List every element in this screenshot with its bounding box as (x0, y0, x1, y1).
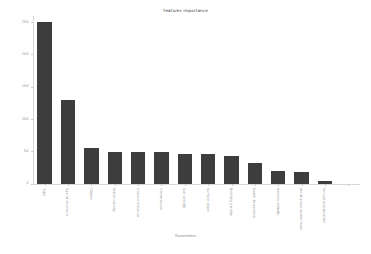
x-tick-label: Compression (159, 188, 163, 210)
x-tick-mark (208, 184, 209, 186)
x-tick-mark (348, 184, 349, 186)
x-tick-mark (68, 184, 69, 186)
x-tick-label: Total (42, 188, 46, 196)
bar (224, 156, 238, 184)
y-tick-label: 250 (22, 20, 29, 24)
bar (178, 154, 192, 184)
x-tick-mark (278, 184, 279, 186)
bar (294, 172, 308, 184)
x-tick-mark (115, 184, 116, 186)
x-tick-mark (91, 184, 92, 186)
x-tick-label: Surface slope (206, 188, 210, 212)
x-axis-label: Parameters (0, 234, 371, 238)
bar (271, 171, 285, 184)
chart-figure: Features importance Importance Parameter… (0, 0, 371, 254)
x-tick-label: Citizen (89, 188, 93, 200)
bar (154, 152, 168, 184)
plot-area (33, 16, 360, 184)
bar (84, 148, 98, 184)
bar (131, 152, 145, 184)
bar (108, 152, 122, 184)
x-tick-label: pH of groundwater level (299, 188, 303, 230)
x-tick-mark (255, 184, 256, 186)
x-tick-mark (45, 184, 46, 186)
y-tick-label: 200 (22, 52, 29, 56)
y-tick-label: 150 (22, 84, 29, 88)
x-tick-mark (325, 184, 326, 186)
x-tick-label: Age of structure (65, 188, 69, 216)
y-tick-label: 100 (22, 117, 29, 121)
x-tick-mark (302, 184, 303, 186)
x-tick-label: Water salinity (112, 188, 116, 212)
x-axis-line (33, 184, 360, 185)
bar (248, 163, 262, 184)
x-tick-mark (138, 184, 139, 186)
x-tick-mark (185, 184, 186, 186)
x-tick-label: Building density (229, 188, 233, 216)
y-tick-label: 0 (26, 181, 28, 185)
bar (61, 100, 75, 184)
x-tick-label: Depth to bedrock (252, 188, 256, 218)
bar (37, 22, 51, 184)
bar (318, 181, 332, 184)
bar (201, 154, 215, 184)
x-tick-label: Soil density (182, 188, 186, 208)
x-tick-mark (161, 184, 162, 186)
chart-title: Features importance (0, 8, 371, 13)
x-tick-label: Annual precipitation (322, 188, 326, 223)
y-tick-label: 50 (24, 149, 28, 153)
x-tick-label: Seismic activity (276, 188, 280, 215)
x-tick-label: Ground moisture (136, 188, 140, 217)
x-tick-mark (232, 184, 233, 186)
